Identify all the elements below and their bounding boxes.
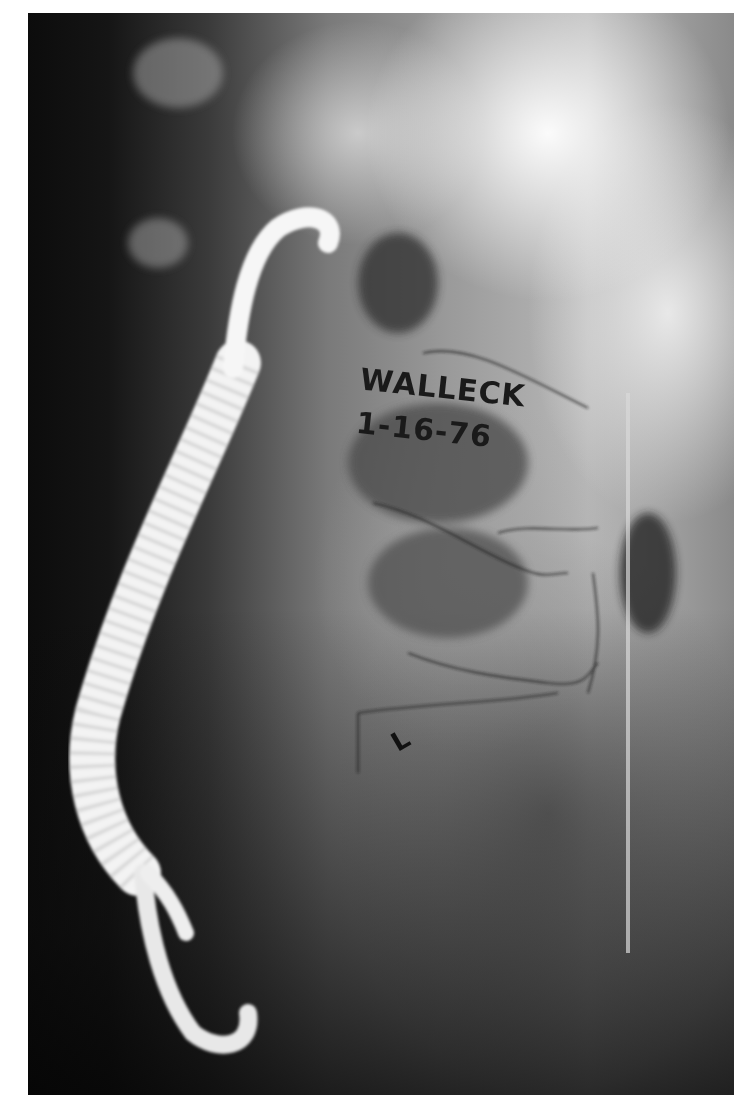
- coiled-device: [92, 217, 330, 1044]
- vertebra-shadows: [128, 38, 676, 638]
- catheter-line: [626, 393, 630, 953]
- xray-overlay: [28, 13, 734, 1095]
